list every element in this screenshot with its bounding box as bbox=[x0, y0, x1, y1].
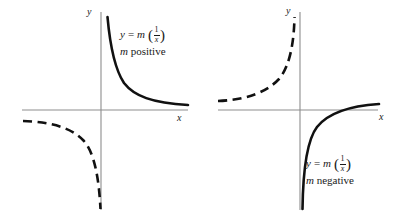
equation-m-positive: y = m ( 1 x ) bbox=[120, 26, 166, 44]
equation-paren-close: ) bbox=[346, 157, 351, 172]
fraction-numerator: 1 bbox=[340, 155, 346, 163]
equation-fraction: 1 x bbox=[154, 26, 160, 44]
equation-equals: = bbox=[128, 28, 134, 41]
equation-paren-open: ( bbox=[148, 28, 153, 43]
x-axis-label-left: x bbox=[177, 113, 181, 123]
equation-fraction: 1 x bbox=[340, 155, 346, 173]
fraction-denominator: x bbox=[154, 36, 160, 44]
equation-equals: = bbox=[314, 157, 320, 170]
x-axis-label-right: x bbox=[379, 112, 383, 122]
equation-coefficient: m bbox=[323, 157, 331, 170]
equation-lhs: y bbox=[306, 157, 311, 170]
equation-lhs: y bbox=[120, 28, 125, 41]
condition-variable: m bbox=[120, 45, 128, 57]
y-axis-label-left: y bbox=[87, 7, 91, 17]
y-axis-label-right: y bbox=[286, 6, 290, 16]
fraction-denominator: x bbox=[340, 165, 346, 173]
condition-variable: m bbox=[306, 174, 314, 186]
equation-m-negative: y = m ( 1 x ) bbox=[306, 155, 354, 173]
condition-word: positive bbox=[131, 45, 166, 57]
equation-coefficient: m bbox=[137, 28, 145, 41]
annotation-m-negative: y = m ( 1 x ) m negative bbox=[306, 155, 354, 187]
curve-dashed-quadrant-2 bbox=[218, 17, 295, 101]
annotation-m-positive: y = m ( 1 x ) m positive bbox=[120, 26, 166, 58]
panel-right-graph bbox=[198, 0, 396, 220]
curve-dashed-quadrant-3 bbox=[23, 121, 101, 209]
equation-paren-close: ) bbox=[160, 28, 165, 43]
panel-m-positive: y x y = m ( 1 x ) m positive bbox=[0, 0, 198, 220]
fraction-numerator: 1 bbox=[154, 26, 160, 34]
panel-m-negative: y x y = m ( 1 x ) m negative bbox=[198, 0, 396, 220]
condition-word: negative bbox=[317, 174, 354, 186]
equation-paren-open: ( bbox=[334, 157, 339, 172]
condition-m-negative: m negative bbox=[306, 174, 354, 187]
panel-left-graph bbox=[0, 0, 198, 220]
hyperbola-figure: y x y = m ( 1 x ) m positive bbox=[0, 0, 396, 220]
condition-m-positive: m positive bbox=[120, 45, 166, 58]
